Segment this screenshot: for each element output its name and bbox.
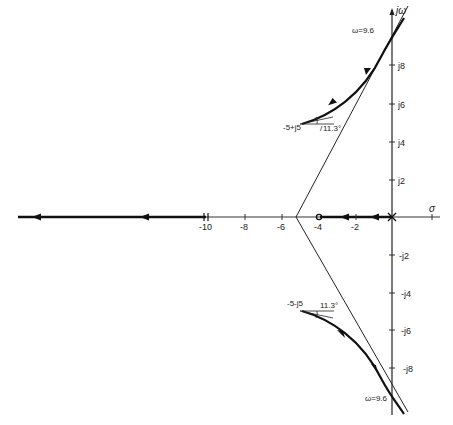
locus-lower-branch xyxy=(302,311,404,414)
omega-label-lower: ω=9.6 xyxy=(365,394,388,403)
arrow-icon xyxy=(32,214,41,221)
tick-label: -4 xyxy=(314,222,322,232)
tick-label: j6 xyxy=(397,100,405,110)
tick-label: -j6 xyxy=(401,326,411,336)
arrow-icon xyxy=(328,98,338,106)
jw-label: jω xyxy=(394,5,406,16)
arrow-icon xyxy=(340,214,349,221)
arrow-icon xyxy=(140,214,149,221)
tick-label: -6 xyxy=(277,222,285,232)
tick-label: -10 xyxy=(199,222,212,232)
pole-label-upper: -5+j5 xyxy=(283,123,302,132)
arrow-icon xyxy=(370,214,379,221)
arrow-icon xyxy=(371,364,377,372)
tick-label: -j2 xyxy=(399,251,409,261)
tick-label: -j8 xyxy=(403,364,413,374)
tick-label: -j4 xyxy=(401,289,411,299)
jw-arrow-icon xyxy=(390,8,395,15)
tick-label: -8 xyxy=(240,222,248,232)
sigma-label: σ xyxy=(429,203,436,214)
angle-label-lower: 11.3° xyxy=(320,301,338,310)
tick-label: j4 xyxy=(397,138,405,148)
pole-label-lower: -5-j5 xyxy=(287,299,304,308)
tick-label: j8 xyxy=(397,61,405,71)
tick-label: -2 xyxy=(351,222,359,232)
root-locus-diagram: -10 -8 -6 -4 -2 σ jω j8 j6 j4 j2 -j2 -j4… xyxy=(0,0,453,425)
angle-label-upper: 11.3° xyxy=(323,124,341,133)
omega-label-upper: ω=9.6 xyxy=(352,26,375,35)
tick-label: j2 xyxy=(397,176,405,186)
